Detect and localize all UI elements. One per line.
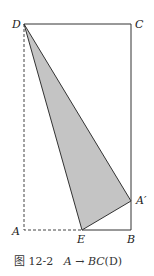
figure-caption: 图 12-2 A → BC(D) [14,252,122,268]
label-e: E [77,234,85,245]
folded-triangle [24,24,131,230]
caption-to: BC [88,255,105,268]
label-c: C [135,19,143,30]
caption-from: A [64,255,72,268]
label-a: A [12,226,20,237]
caption-suffix: (D) [105,255,122,268]
caption-number: 图 12-2 [14,255,53,268]
label-d: D [12,19,21,30]
label-a-prime: A′ [136,195,146,206]
label-b: B [127,234,135,245]
caption-arrow: → [75,255,84,268]
